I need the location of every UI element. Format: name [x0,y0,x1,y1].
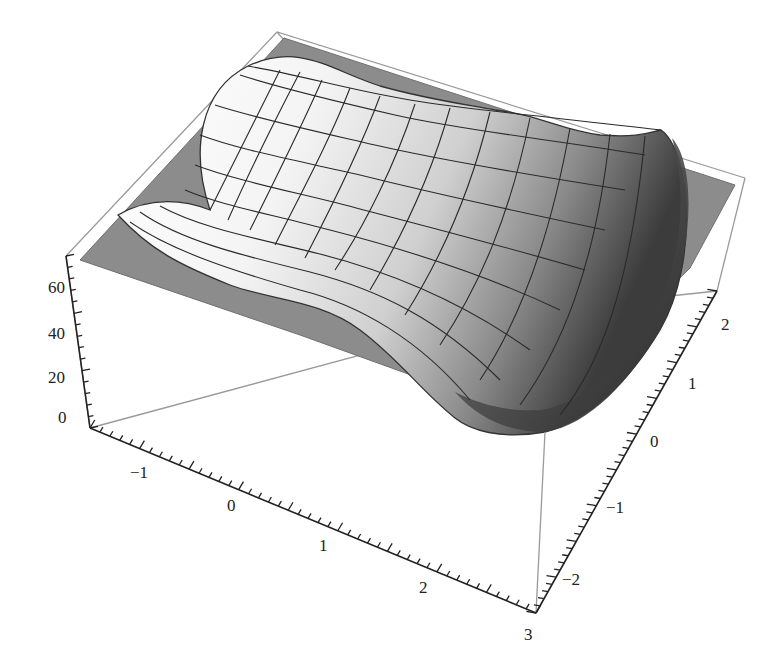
tick-mark [647,397,657,399]
y-tick-label: −1 [606,498,624,517]
tick-mark [72,301,77,302]
tick-mark [80,358,85,359]
tick-mark [534,605,540,606]
tick-mark [447,571,450,576]
tick-mark [683,340,689,341]
tick-mark [77,335,82,336]
tick-mark [149,448,152,453]
tick-mark [328,522,331,527]
y-tick-label: 0 [650,432,659,451]
tick-mark [554,569,560,570]
tick-mark [82,369,90,371]
z-tick-label: 0 [58,408,67,427]
tick-mark [655,390,661,391]
tick-mark [79,347,84,348]
x-tick-label: 1 [319,536,328,555]
tick-mark [506,596,509,601]
tick-mark [477,583,480,588]
tick-mark [546,583,552,584]
tick-mark [566,548,572,549]
tick-mark [229,481,232,486]
tick-mark [219,476,222,481]
tick-mark [397,550,400,555]
tick-mark [110,431,113,436]
tick-mark [268,497,271,502]
tick-mark [76,324,81,325]
tick-mark [578,526,584,527]
tick-mark [635,426,641,427]
tick-mark [87,404,92,405]
tick-mark [663,376,669,377]
x-tick-labels: −1 0 1 2 3 [130,463,533,644]
tick-mark [288,502,293,510]
tick-mark [120,435,123,440]
tick-mark [627,433,637,435]
tick-mark [623,447,629,448]
tick-mark [667,369,673,370]
x-tick-label: 3 [524,625,533,644]
tick-mark [169,456,172,461]
z-tick-label: 40 [48,324,65,343]
tick-mark [614,462,620,463]
y-tick-label: −2 [562,570,580,589]
tick-mark [582,519,588,520]
tick-mark [179,460,182,465]
tick-mark [703,304,709,305]
tick-mark [71,289,76,290]
tick-mark [457,575,460,580]
z-tick-label: 60 [48,278,65,297]
tick-mark [209,472,212,477]
x-axis [90,428,536,613]
tick-mark [368,538,371,543]
tick-mark [618,455,624,456]
z-tick-label: 20 [48,368,65,387]
z-tick-labels: 60 40 20 0 [48,278,67,427]
tick-mark [258,493,261,498]
tick-mark [627,440,633,441]
tick-mark [417,559,420,564]
tick-mark [643,412,649,413]
tick-mark [88,416,93,417]
tick-mark [437,564,442,572]
tick-mark [84,381,89,382]
tick-mark [69,278,74,279]
x-tick-label: −1 [130,463,148,482]
tick-mark [278,501,281,506]
tick-mark [308,513,311,518]
tick-mark [587,504,597,506]
tick-mark [695,319,701,320]
tick-mark [647,404,653,405]
tick-mark [687,325,697,327]
tick-mark [189,461,194,469]
x-tick-label: 2 [419,578,428,597]
tick-mark [387,543,392,551]
y-tick-label: 2 [721,315,730,334]
tick-mark [675,354,681,355]
tick-mark [547,576,557,578]
tick-mark [526,604,529,609]
tick-mark [427,563,430,568]
x-tick-label: 0 [227,496,236,515]
tick-mark [130,439,133,444]
tick-mark [594,498,600,499]
tick-mark [486,584,491,592]
tick-mark [707,297,713,298]
tick-mark [699,311,705,312]
tick-mark [639,419,645,420]
tick-mark [679,347,685,348]
y-tick-label: 1 [688,374,697,393]
tick-mark [249,489,252,494]
tick-mark [567,540,577,542]
tick-mark [348,530,351,535]
z-axis [66,256,90,428]
tick-mark [687,333,693,334]
tick-mark [558,562,564,563]
tick-mark [574,533,580,534]
tick-mark [607,468,617,470]
surface-plot: 60 40 20 0 −1 0 1 2 3 2 1 0 −1 −2 [0,0,779,653]
tick-mark [659,383,665,384]
tick-mark [377,542,380,547]
tick-mark [338,523,343,531]
tick-mark [298,509,301,514]
tick-mark [602,483,608,484]
